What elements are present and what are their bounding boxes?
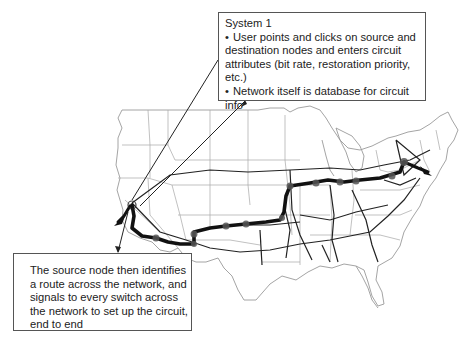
route-signaling-callout: The source node then identifies a route … (13, 253, 192, 331)
callout-text: The source node then identifies a route … (30, 264, 191, 332)
bullet-icon: • (225, 85, 233, 99)
bullet-text: User points and clicks on source and des… (225, 31, 416, 84)
bullet-icon: • (225, 31, 233, 45)
pointer-arrowhead-icon (115, 246, 121, 253)
callout-heading: System 1 (225, 17, 425, 31)
system-1-callout: System 1 •User points and clicks on sour… (218, 12, 426, 101)
callout-bullet: •Network itself is database for circuit … (225, 85, 425, 112)
bullet-text: Network itself is database for circuit i… (225, 85, 409, 111)
callout-bullet: •User points and clicks on source and de… (225, 31, 425, 85)
